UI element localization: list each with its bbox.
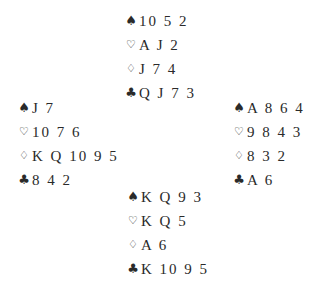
spade-icon: ♠	[233, 96, 245, 120]
north-hearts-row: ♡ A J 2	[125, 33, 196, 57]
east-spades-cards: A 8 6 4	[247, 96, 305, 120]
south-hearts-row: ♡ K Q 5	[127, 209, 209, 233]
south-hearts-cards: K Q 5	[141, 209, 188, 233]
club-icon: ♣	[233, 168, 245, 192]
east-diamonds-cards: 8 3 2	[247, 144, 287, 168]
south-hand: ♠ K Q 9 3 ♡ K Q 5 ♢ A 6 ♣ K 10 9 5	[127, 185, 209, 281]
west-spades-cards: J 7	[32, 96, 55, 120]
heart-icon: ♡	[233, 120, 245, 144]
south-spades-row: ♠ K Q 9 3	[127, 185, 209, 209]
south-clubs-cards: K 10 9 5	[141, 257, 209, 281]
east-hearts-cards: 9 8 4 3	[247, 120, 302, 144]
west-clubs-cards: 8 4 2	[32, 168, 72, 192]
east-clubs-cards: A 6	[247, 168, 274, 192]
north-diamonds-row: ♢ J 7 4	[125, 57, 196, 81]
north-spades-row: ♠ 10 5 2	[125, 9, 196, 33]
north-spades-cards: 10 5 2	[139, 9, 189, 33]
spade-icon: ♠	[127, 185, 139, 209]
heart-icon: ♡	[127, 209, 139, 233]
south-clubs-row: ♣ K 10 9 5	[127, 257, 209, 281]
club-icon: ♣	[127, 257, 139, 281]
west-clubs-row: ♣ 8 4 2	[18, 168, 119, 192]
west-spades-row: ♠ J 7	[18, 96, 119, 120]
diamond-icon: ♢	[18, 144, 30, 168]
north-hand: ♠ 10 5 2 ♡ A J 2 ♢ J 7 4 ♣ Q J 7 3	[125, 9, 196, 105]
diamond-icon: ♢	[233, 144, 245, 168]
west-diamonds-cards: K Q 10 9 5	[32, 144, 119, 168]
east-diamonds-row: ♢ 8 3 2	[233, 144, 305, 168]
north-clubs-cards: Q J 7 3	[139, 81, 196, 105]
spade-icon: ♠	[18, 96, 30, 120]
north-clubs-row: ♣ Q J 7 3	[125, 81, 196, 105]
south-spades-cards: K Q 9 3	[141, 185, 203, 209]
west-hearts-cards: 10 7 6	[32, 120, 82, 144]
south-diamonds-cards: A 6	[141, 233, 168, 257]
east-hand: ♠ A 8 6 4 ♡ 9 8 4 3 ♢ 8 3 2 ♣ A 6	[233, 96, 305, 192]
east-hearts-row: ♡ 9 8 4 3	[233, 120, 305, 144]
diamond-icon: ♢	[127, 233, 139, 257]
west-hand: ♠ J 7 ♡ 10 7 6 ♢ K Q 10 9 5 ♣ 8 4 2	[18, 96, 119, 192]
club-icon: ♣	[125, 81, 137, 105]
spade-icon: ♠	[125, 9, 137, 33]
west-hearts-row: ♡ 10 7 6	[18, 120, 119, 144]
south-diamonds-row: ♢ A 6	[127, 233, 209, 257]
east-clubs-row: ♣ A 6	[233, 168, 305, 192]
north-hearts-cards: A J 2	[139, 33, 180, 57]
heart-icon: ♡	[125, 33, 137, 57]
west-diamonds-row: ♢ K Q 10 9 5	[18, 144, 119, 168]
heart-icon: ♡	[18, 120, 30, 144]
east-spades-row: ♠ A 8 6 4	[233, 96, 305, 120]
club-icon: ♣	[18, 168, 30, 192]
north-diamonds-cards: J 7 4	[139, 57, 177, 81]
diamond-icon: ♢	[125, 57, 137, 81]
